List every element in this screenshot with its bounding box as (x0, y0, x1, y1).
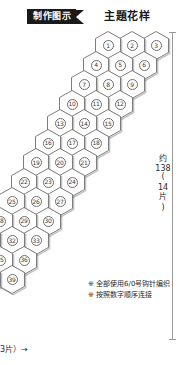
hexagon-number-20: 20 (55, 157, 66, 168)
measurement-approx-label: 约 (159, 154, 167, 163)
hexagon-motif-39: 39 (0, 265, 26, 295)
hexagon-number-25: 25 (7, 196, 18, 207)
hexagon-number-9: 9 (127, 79, 138, 90)
hexagon-number-8: 8 (103, 79, 114, 90)
hexagon-number-1: 1 (103, 40, 114, 51)
hexagon-number-17: 17 (67, 138, 78, 149)
hexagon-number-39: 39 (7, 274, 18, 285)
hexagon-number-23: 23 (43, 177, 54, 188)
hexagon-number-3: 3 (151, 40, 162, 51)
hexagon-number-26: 26 (31, 196, 42, 207)
note-line-1: ※ 按照数字顺序连接 (88, 290, 170, 301)
hexagon-number-18: 18 (91, 138, 102, 149)
hexagon-number-11: 11 (91, 99, 102, 110)
hexagon-number-33: 33 (31, 235, 42, 246)
hexagon-number-32: 32 (7, 235, 18, 246)
hexagon-number-10: 10 (67, 99, 78, 110)
hexagon-number-19: 19 (31, 157, 42, 168)
measurement-line (172, 32, 173, 340)
hexagon-number-22: 22 (19, 177, 30, 188)
hexagon-number-28: 28 (0, 216, 6, 227)
hexagon-number-6: 6 (139, 60, 150, 71)
note-line-0: ※ 全部使用6/0号钩针编织 (88, 279, 170, 290)
hexagon-number-2: 2 (127, 40, 138, 51)
measurement-paren-open: ( (154, 174, 172, 180)
hexagon-number-13: 13 (55, 118, 66, 129)
hexagon-number-15: 15 (103, 118, 114, 129)
hexagon-number-5: 5 (115, 60, 126, 71)
hexagon-number-16: 16 (43, 138, 54, 149)
hexagon-number-4: 4 (91, 60, 102, 71)
measurement-count: 14 片 (156, 182, 170, 202)
measurement-cap-top (169, 32, 176, 33)
measurement-count-number: 14 (158, 183, 168, 192)
hexagon-number-12: 12 (115, 99, 126, 110)
hexagon-number-30: 30 (43, 216, 54, 227)
hexagon-number-35: 35 (0, 255, 6, 266)
measurement-cap-bottom (169, 339, 176, 340)
notes-block: ※ 全部使用6/0号钩针编织 ※ 按照数字顺序连接 (88, 279, 170, 301)
measurement-count-unit: 片 (159, 192, 167, 201)
hexagon-number-27: 27 (55, 196, 66, 207)
hexagon-number-29: 29 (19, 216, 30, 227)
hexagon-number-7: 7 (79, 79, 90, 90)
hexagon-number-21: 21 (79, 157, 90, 168)
measurement-paren-close: ) (154, 205, 172, 211)
hexagon-number-36: 36 (19, 255, 30, 266)
bottom-piece-count-label: 3片）→ (0, 345, 28, 355)
hexagon-number-14: 14 (79, 118, 90, 129)
hexagon-number-24: 24 (67, 177, 78, 188)
pattern-diagram-page: 制作图示 主題花样 321654987121110151413181716212… (0, 0, 189, 365)
hexagon-motif-38: 38 (0, 265, 2, 295)
